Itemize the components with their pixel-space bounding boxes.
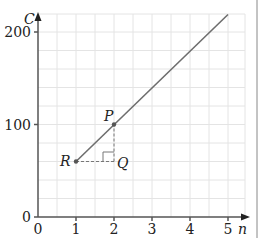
grid	[38, 14, 245, 217]
point-r	[74, 159, 78, 163]
x-tick-2: 2	[110, 221, 119, 237]
axes	[34, 18, 244, 221]
label-p: P	[103, 108, 114, 124]
x-tick-0: 0	[34, 221, 43, 237]
x-tick-5: 5	[224, 221, 233, 237]
x-tick-3: 3	[148, 221, 157, 237]
y-tick-100: 100	[4, 117, 31, 133]
right-angle-icon	[103, 152, 114, 162]
x-tick-4: 4	[186, 221, 195, 237]
y-tick-200: 200	[4, 24, 31, 40]
y-axis-arrow-icon	[35, 12, 42, 21]
label-q: Q	[117, 155, 129, 171]
x-axis-label: n	[238, 221, 247, 237]
label-r: R	[59, 153, 71, 169]
y-tick-0: 0	[22, 209, 31, 225]
x-tick-1: 1	[72, 221, 81, 237]
chart: C n 200 100 0 0 1 2 3 4 5 R P Q	[0, 0, 259, 238]
